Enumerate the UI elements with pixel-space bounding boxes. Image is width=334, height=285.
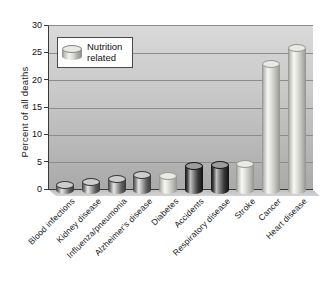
y-tick-label-30: 30 bbox=[0, 20, 42, 30]
bar-influenza-pneumonia bbox=[108, 175, 126, 194]
nutrition-deaths-bar-chart: Percent of all deaths Nutrition related … bbox=[0, 0, 334, 285]
bar-heart-disease bbox=[288, 44, 306, 194]
x-axis-label-stroke: Stroke bbox=[233, 196, 258, 221]
y-tick-label-5: 5 bbox=[0, 157, 42, 167]
y-tick-label-15: 15 bbox=[0, 102, 42, 112]
bar-alzheimer-s-disease bbox=[133, 171, 151, 194]
y-tick-label-10: 10 bbox=[0, 129, 42, 139]
bar-blood-infections bbox=[56, 181, 74, 194]
legend-nutrition-related: Nutrition related bbox=[57, 37, 133, 68]
bar-respiratory-disease bbox=[211, 161, 229, 194]
y-tick-label-20: 20 bbox=[0, 75, 42, 85]
bar-diabetes bbox=[159, 172, 177, 194]
bar-stroke bbox=[236, 160, 254, 194]
y-tick-label-0: 0 bbox=[0, 184, 42, 194]
legend-label: Nutrition related bbox=[87, 42, 122, 63]
bar-accidents bbox=[185, 162, 203, 194]
bar-kidney-disease bbox=[82, 178, 100, 194]
cylinder-icon bbox=[62, 45, 82, 60]
y-tick-label-25: 25 bbox=[0, 47, 42, 57]
bar-cancer bbox=[262, 60, 280, 194]
